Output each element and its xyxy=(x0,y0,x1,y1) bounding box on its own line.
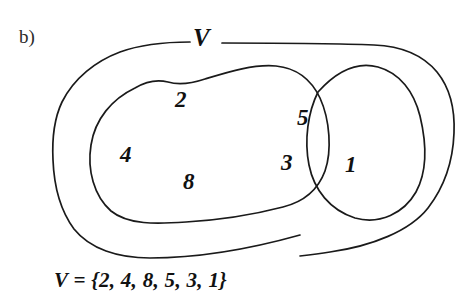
element-8: 8 xyxy=(183,170,195,193)
set-caption: V = {2, 4, 8, 5, 3, 1} xyxy=(54,270,227,291)
element-2: 2 xyxy=(175,88,187,111)
universal-set-label: V xyxy=(193,25,210,50)
element-5: 5 xyxy=(297,106,309,129)
part-label: b) xyxy=(19,27,35,46)
element-1: 1 xyxy=(345,153,357,176)
element-4: 4 xyxy=(120,143,132,166)
element-3: 3 xyxy=(281,151,293,174)
right-set-boundary xyxy=(307,65,425,220)
venn-diagram-figure: b) V 2 4 8 5 3 1 V = {2, 4, 8, 5, 3, 1} xyxy=(0,0,469,301)
venn-diagram-canvas xyxy=(0,0,469,301)
